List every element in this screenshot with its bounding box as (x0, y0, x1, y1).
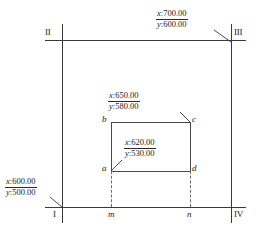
inner-rect-right (190, 122, 191, 171)
outer-boundary-left (62, 24, 63, 223)
corner-marker-iii: III (234, 27, 242, 37)
callout-origin-y-value: 500.00 (12, 187, 35, 197)
outer-boundary-top (45, 40, 246, 41)
corner-marker-i: I (53, 209, 56, 219)
corner-marker-ii: II (45, 27, 51, 37)
inner-rect-bottom (111, 171, 190, 172)
callout-extent-y-row: y:600.00 (156, 20, 188, 30)
callout-inner-lower-y-row: y:530.00 (124, 149, 156, 159)
callout-extent: x:700.00 y:600.00 (156, 9, 188, 30)
vertex-label-c: c (192, 114, 196, 124)
vertex-label-d: d (192, 163, 197, 173)
callout-inner-lower-x-value: 620.00 (131, 137, 154, 147)
callout-origin: x:600.00 y:500.00 (5, 177, 37, 198)
outer-boundary-bottom (45, 207, 246, 208)
callout-inner-upper-y-row: y:580.00 (108, 102, 140, 112)
tick-label-n: n (187, 209, 192, 219)
tick-label-m: m (108, 209, 115, 219)
callout-origin-y-row: y:500.00 (5, 188, 37, 198)
inner-rect-top (111, 122, 190, 123)
callout-origin-x-value: 600.00 (12, 176, 35, 186)
projection-line-m (111, 171, 112, 207)
inner-rect-left (111, 122, 112, 171)
vertex-label-b: b (102, 114, 107, 124)
callout-extent-y-value: 600.00 (163, 19, 186, 29)
callout-inner-lower: x:620.00 y:530.00 (124, 138, 156, 159)
callout-leader-lines (0, 0, 256, 241)
coordinate-boundary-diagram: II III I IV b c a d m n x:600.00 y:500.0… (0, 0, 256, 241)
callout-inner-upper-x-value: 650.00 (115, 90, 138, 100)
callout-extent-x-value: 700.00 (163, 8, 186, 18)
callout-inner-lower-y-value: 530.00 (131, 148, 154, 158)
corner-marker-iv: IV (234, 209, 243, 219)
outer-boundary-right (231, 24, 232, 223)
projection-line-n (190, 171, 191, 207)
callout-inner-upper: x:650.00 y:580.00 (108, 91, 140, 112)
vertex-label-a: a (102, 163, 107, 173)
callout-inner-upper-y-value: 580.00 (115, 101, 138, 111)
